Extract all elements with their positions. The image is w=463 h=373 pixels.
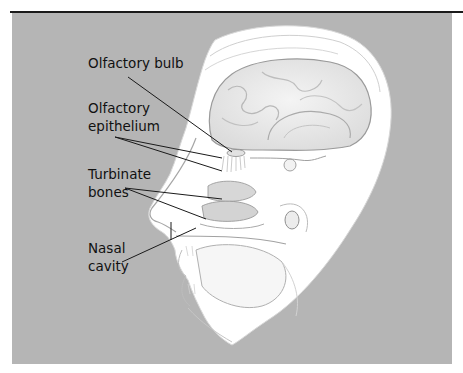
head-cross-section-illustration <box>0 0 463 373</box>
brain <box>209 59 371 150</box>
label-olfactory-epithelium: Olfactory epithelium <box>88 99 160 135</box>
label-turbinate-bones: Turbinate bones <box>88 165 151 201</box>
label-olfactory-bulb: Olfactory bulb <box>88 54 184 72</box>
label-nasal-cavity: Nasal cavity <box>88 239 129 275</box>
